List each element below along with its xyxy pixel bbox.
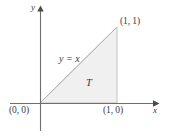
region-label-t: T xyxy=(86,78,92,89)
point-label-top-right: (1, 1) xyxy=(120,17,140,27)
x-axis-label: x xyxy=(153,106,157,115)
point-label-origin: (0, 0) xyxy=(9,106,29,116)
point-label-bottom-right: (1, 0) xyxy=(103,106,123,116)
figure-canvas xyxy=(0,0,171,139)
line-equation-label: y = x xyxy=(59,54,80,64)
y-axis-arrowhead xyxy=(37,6,43,12)
math-figure: y x (1, 1) (0, 0) (1, 0) y = x T xyxy=(0,0,171,139)
y-axis-label: y xyxy=(31,3,35,12)
